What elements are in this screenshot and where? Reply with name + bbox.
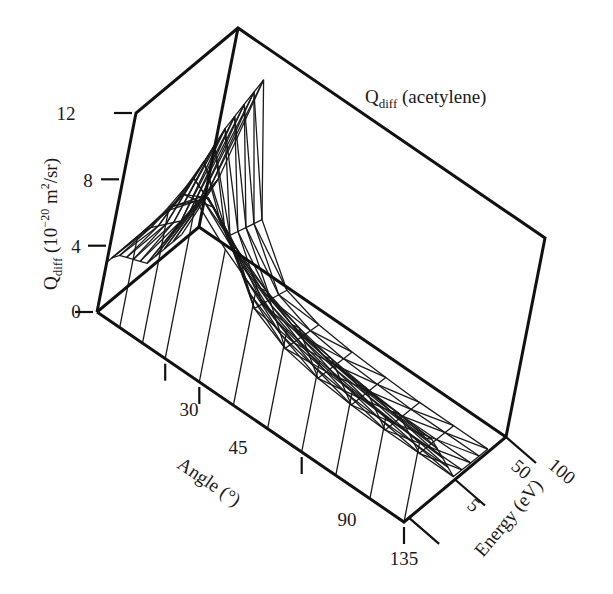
y-tick-label-5: 5	[463, 494, 484, 516]
z-axis-label: Qdiff (10−20 m2/sr)	[38, 158, 65, 290]
axis-ticks	[75, 113, 536, 544]
z-tick-label-0: 0	[71, 301, 81, 322]
wall-drop-line	[199, 249, 225, 382]
y-tick-label-100: 100	[544, 454, 579, 488]
x-tick-label-90: 90	[338, 509, 357, 530]
x-tick-label-135: 135	[390, 548, 419, 569]
mesh-line-energy	[164, 104, 470, 463]
mesh-diagonal	[158, 162, 204, 226]
z-tick-label-4: 4	[71, 236, 81, 257]
x-axis-label: Angle (°)	[173, 453, 245, 511]
wall-drop-line	[233, 293, 255, 406]
mesh-diagonal	[230, 235, 263, 304]
chart-3d-surface: Qdiff (acetylene) Qdiff (10−20 m2/sr) 12…	[0, 0, 613, 594]
y-axis-label: Energy (eV)	[470, 475, 547, 561]
y-tick	[409, 518, 439, 544]
back-wall-lines	[97, 201, 420, 522]
x-tick-label-30: 30	[180, 399, 199, 420]
mesh-diagonal	[254, 92, 262, 220]
z-tick-label-12: 12	[57, 103, 76, 124]
mesh-diagonal	[120, 226, 159, 256]
chart-title: Qdiff (acetylene)	[365, 86, 486, 111]
plot-area: Qdiff (acetylene) Qdiff (10−20 m2/sr) 12…	[0, 0, 613, 594]
x-tick-label-45: 45	[229, 437, 248, 458]
z-tick-label-8: 8	[83, 170, 93, 191]
surface-mesh	[112, 80, 488, 477]
